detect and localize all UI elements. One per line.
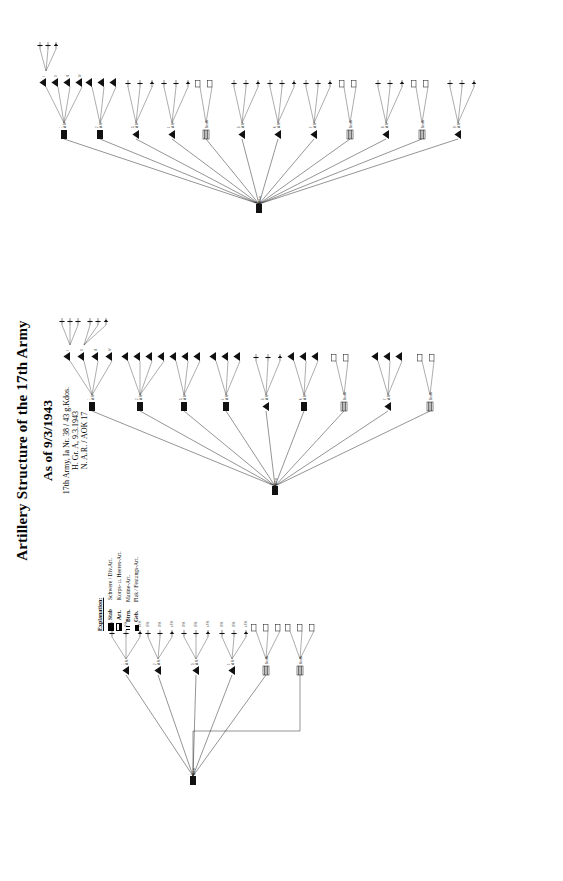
svg-text:l.F.H.: l.F.H. <box>124 621 128 627</box>
svg-text:A.R.: A.R. <box>157 659 161 665</box>
svg-text:II: II <box>80 349 84 351</box>
svg-text:l.F.H.: l.F.H. <box>158 621 162 627</box>
group-2: Arko 2 A.R.1 A.R.2 <box>59 318 434 495</box>
svg-text:A.R.: A.R. <box>231 659 235 665</box>
group-3-branch-node: A.R.2 <box>95 122 103 139</box>
org-chart: Arko 1 A.R.1 <box>0 0 563 881</box>
svg-text:A.R.: A.R. <box>171 122 175 128</box>
svg-text:IV: IV <box>78 74 82 77</box>
group-1-branch-node: A.R.1 <box>121 659 129 675</box>
group-1-leaf-cluster: l.F.H. l.F.H. s.F.H. l.F.H. l.F.H. s.F.H… <box>109 620 314 659</box>
group-3-branch-node: A.R.5 <box>237 122 245 139</box>
svg-text:l.F.H.: l.F.H. <box>194 621 198 627</box>
svg-text:A.R.: A.R. <box>241 122 245 128</box>
svg-text:A.R.: A.R. <box>457 122 461 128</box>
group-2-branch-node: A.R.4 <box>221 394 229 411</box>
group-3: Arko 3 <box>37 42 476 213</box>
svg-text:A.R.: A.R. <box>125 659 129 665</box>
group-3-branch-node: A.R.7 <box>309 122 317 139</box>
group-2-branch-node: A.R.5 <box>261 394 269 411</box>
group-2-branch-node: A.R.2 <box>135 394 143 411</box>
svg-text:A.R.: A.R. <box>135 122 139 128</box>
group-3-branch-node: A.R.1 <box>59 122 67 139</box>
svg-text:A.R.: A.R. <box>99 122 103 128</box>
svg-text:s.F.H.: s.F.H. <box>138 620 142 627</box>
svg-text:l.F.H.: l.F.H. <box>232 621 236 627</box>
svg-text:I: I <box>42 76 46 77</box>
group-1-branch-node: A.R.2 <box>153 659 161 675</box>
svg-text:III: III <box>66 75 70 77</box>
group-3-branch-node: A.R.4 <box>167 122 175 139</box>
svg-text:A.R.: A.R. <box>265 394 269 400</box>
svg-text:s.F.H.: s.F.H. <box>244 620 248 627</box>
group-3-branch-node: A.R.3 <box>131 122 139 139</box>
svg-text:A.R.: A.R. <box>303 394 307 400</box>
svg-text:A.R.: A.R. <box>183 394 187 400</box>
group-3-root-symbol: Arko 3 <box>254 196 262 213</box>
group-1-branch-node: A.R.3 <box>191 659 199 675</box>
svg-text:III: III <box>94 349 98 351</box>
group-3-branch-node: A.R.8 <box>381 122 389 139</box>
scanned-page: Artillery Structure of the 17th Army As … <box>0 0 563 881</box>
svg-text:A.R.: A.R. <box>195 659 199 665</box>
svg-text:l.F.H.: l.F.H. <box>146 621 150 627</box>
svg-text:s.F.H.: s.F.H. <box>206 620 210 627</box>
svg-text:A.R.: A.R. <box>225 394 229 400</box>
svg-text:l.F.H.: l.F.H. <box>220 621 224 627</box>
svg-text:II: II <box>54 75 58 77</box>
svg-text:A.R.: A.R. <box>277 122 281 128</box>
svg-text:IV: IV <box>108 348 112 351</box>
group-3-branch-node: A.R.6 <box>273 122 281 139</box>
svg-text:l.F.H.: l.F.H. <box>182 621 186 627</box>
group-2-branch-node: A.R.1 <box>87 394 95 411</box>
svg-text:A.R.: A.R. <box>385 122 389 128</box>
group-2-leaf-cluster: I II III IV <box>59 318 434 395</box>
svg-text:A.R.: A.R. <box>63 122 67 128</box>
rotated-artwork: Artillery Structure of the 17th Army As … <box>0 0 563 881</box>
svg-text:s.F.H.: s.F.H. <box>170 620 174 627</box>
org-chart-canvas: Arko 1 A.R.1 <box>0 0 563 881</box>
svg-text:l.F.H.: l.F.H. <box>110 621 114 627</box>
chart-sheet: Artillery Structure of the 17th Army As … <box>0 0 563 881</box>
svg-text:I: I <box>66 350 70 351</box>
group-2-branch-node: A.R.3 <box>179 394 187 411</box>
svg-text:A.R.: A.R. <box>313 122 317 128</box>
group-1: Arko 1 A.R.1 <box>109 620 314 785</box>
group-2-branch-node: A.R.7 <box>383 394 391 411</box>
group-2-branch-node: A.R.6 <box>299 394 307 411</box>
group-3-leaf-cluster: I II III IV <box>37 42 476 123</box>
svg-text:A.R.: A.R. <box>387 394 391 400</box>
svg-text:A.R.: A.R. <box>139 394 143 400</box>
group-1-branch-node: A.R.4 <box>227 659 235 675</box>
group-3-branch-node: A.R.9 <box>453 122 461 139</box>
